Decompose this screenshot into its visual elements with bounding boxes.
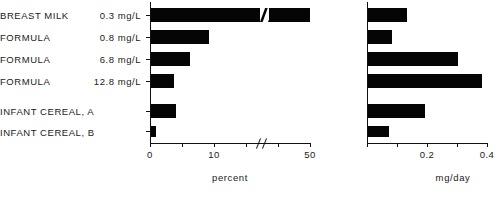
mgday-tick-0 <box>367 143 368 147</box>
category-name: INFANT CEREAL, A <box>0 106 94 117</box>
percent-tick-15 <box>246 143 247 147</box>
percent-tick-50 <box>310 143 311 147</box>
category-name: INFANT CEREAL, B <box>0 127 95 138</box>
percent-row-tick <box>146 81 150 82</box>
mgday-tick-04 <box>487 143 488 147</box>
category-concentration: 6.8 mg/L <box>100 54 146 65</box>
category-label-row: FORMULA 6.8 mg/L <box>0 52 146 66</box>
percent-ticklabel-0: 0 <box>147 149 153 160</box>
bar-cereal-b-percent <box>151 126 156 137</box>
percent-axis-title: percent <box>212 172 248 183</box>
percent-tick-0 <box>150 143 151 147</box>
percent-x-axis <box>150 143 311 144</box>
category-label-row: INFANT CEREAL, A <box>0 104 146 118</box>
mgday-tick-01 <box>397 143 398 147</box>
chart-figure: BREAST MILK 0.3 mg/L FORMULA 0.8 mg/L FO… <box>0 0 500 201</box>
bar-cereal-a-mgday <box>368 104 425 118</box>
category-concentration: 0.3 mg/L <box>100 10 146 21</box>
mgday-y-axis <box>367 2 368 143</box>
bar-cereal-b-mgday <box>368 126 389 137</box>
mgday-ticklabel-02: 0.2 <box>420 149 435 160</box>
percent-panel: 0 10 50 percent <box>150 0 325 150</box>
axis-break-mark-icon <box>256 138 270 149</box>
axis-break-slash-icon <box>260 8 269 22</box>
category-label-row: BREAST MILK 0.3 mg/L <box>0 8 146 22</box>
category-label-row: INFANT CEREAL, B <box>0 125 146 139</box>
mgday-ticklabel-04: 0.4 <box>480 149 495 160</box>
category-name: FORMULA <box>0 54 50 65</box>
bar-formula-128-percent <box>151 74 174 88</box>
mgday-tick-03 <box>457 143 458 147</box>
percent-tick-5 <box>182 143 183 147</box>
category-concentration: 12.8 mg/L <box>94 76 146 87</box>
category-concentration: 0.8 mg/L <box>100 32 146 43</box>
percent-ticklabel-50: 50 <box>304 149 316 160</box>
mgday-tick-02 <box>427 143 428 147</box>
percent-row-tick <box>146 131 150 132</box>
percent-tick-45 <box>278 143 279 147</box>
category-name: BREAST MILK <box>0 10 69 21</box>
category-name: FORMULA <box>0 32 50 43</box>
bar-breast-milk-percent <box>151 8 310 22</box>
percent-ticklabel-10: 10 <box>208 149 220 160</box>
percent-row-tick <box>146 111 150 112</box>
bar-formula-08-percent <box>151 30 209 44</box>
percent-row-tick <box>146 59 150 60</box>
bar-formula-68-percent <box>151 52 190 66</box>
percent-row-tick <box>146 37 150 38</box>
bar-formula-08-mgday <box>368 30 392 44</box>
percent-tick-10 <box>214 143 215 147</box>
bar-cereal-a-percent <box>151 104 176 118</box>
category-label-row: FORMULA 12.8 mg/L <box>0 74 146 88</box>
category-label-column: BREAST MILK 0.3 mg/L FORMULA 0.8 mg/L FO… <box>0 0 150 150</box>
percent-y-axis <box>150 2 151 143</box>
bar-formula-68-mgday <box>368 52 458 66</box>
mgday-axis-title: mg/day <box>436 172 471 183</box>
category-name: FORMULA <box>0 76 50 87</box>
percent-row-tick <box>146 15 150 16</box>
bar-formula-128-mgday <box>368 74 482 88</box>
bar-breast-milk-mgday <box>368 8 407 22</box>
mgday-panel: 0.2 0.4 mg/day <box>367 0 500 150</box>
category-label-row: FORMULA 0.8 mg/L <box>0 30 146 44</box>
